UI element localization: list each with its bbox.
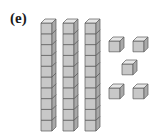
cube-front-face [85,45,96,56]
cube-front-face [85,23,96,34]
cube-front-face [63,77,74,88]
unit-cube [109,84,124,99]
cube-front-face [41,88,52,99]
tens-rod [63,19,78,131]
cube-front-face [63,23,74,34]
cube-front-face [122,64,133,75]
cube-front-face [41,66,52,77]
cube-front-face [109,41,120,52]
cube-front-face [41,55,52,66]
tens-rod [85,19,100,131]
cube-front-face [41,99,52,110]
cube-front-face [63,45,74,56]
tens-rod [41,19,56,131]
cube-front-face [133,88,144,99]
cube-front-face [41,34,52,45]
cube-front-face [63,34,74,45]
cube-front-face [85,99,96,110]
cube-front-face [85,120,96,131]
unit-cube [122,60,137,75]
cube-front-face [41,77,52,88]
unit-cube [133,37,148,52]
cube-front-face [63,99,74,110]
unit-cube [109,37,124,52]
cube-front-face [63,55,74,66]
base-ten-blocks-diagram [0,0,162,133]
cube-front-face [85,55,96,66]
cube-front-face [133,41,144,52]
cube-front-face [85,66,96,77]
cube-front-face [85,88,96,99]
unit-cube [133,84,148,99]
cube-front-face [41,109,52,120]
cube-front-face [63,88,74,99]
cube-front-face [41,23,52,34]
cube-front-face [63,66,74,77]
cube-front-face [41,45,52,56]
cube-front-face [109,88,120,99]
cube-front-face [85,34,96,45]
cube-front-face [41,120,52,131]
cube-front-face [63,109,74,120]
cube-front-face [85,109,96,120]
cube-front-face [85,77,96,88]
cube-front-face [63,120,74,131]
